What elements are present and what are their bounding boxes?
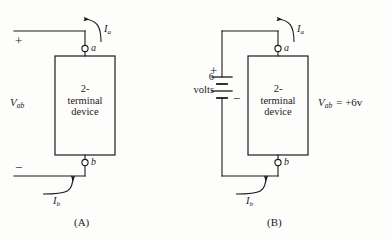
- terminal-b-node-panel-b: [275, 159, 281, 165]
- terminal-a-label-panel-b: a: [284, 43, 289, 53]
- device-label-line-2: terminal: [55, 95, 115, 107]
- current-label-ib-subscript: b: [250, 200, 254, 208]
- polarity-minus-panel-a: −: [15, 161, 22, 174]
- panel-caption-a: (A): [74, 216, 89, 228]
- voltage-label-subscript: ab: [325, 101, 332, 110]
- current-label-ia-subscript: a: [301, 28, 305, 36]
- device-label-line-2: terminal: [248, 95, 308, 107]
- circuit-figure: 2- terminal device a b Ia Ib Vab + − (A)…: [0, 0, 391, 240]
- device-label-line-3: device: [248, 106, 308, 118]
- source-polarity-minus: −: [233, 92, 240, 105]
- device-label-line-1: 2-: [248, 83, 308, 95]
- current-label-ia-subscript: a: [108, 28, 112, 36]
- current-arrow-ib-panel-b: [236, 176, 266, 194]
- terminal-b-node-panel-a: [82, 159, 88, 165]
- source-unit-label: volts: [178, 85, 214, 96]
- voltage-label-symbol: V: [318, 96, 325, 108]
- device-label-line-3: device: [55, 106, 115, 118]
- panel-caption-b: (B): [267, 216, 282, 228]
- current-label-ib-panel-b: Ib: [246, 196, 253, 208]
- voltage-label-subscript: ab: [17, 101, 24, 110]
- polarity-plus-panel-a: +: [15, 34, 22, 47]
- device-box-label-panel-a: 2- terminal device: [55, 83, 115, 118]
- voltage-label-vab-panel-a: Vab: [10, 97, 24, 109]
- voltage-label-vab-panel-b: Vab= +6v: [318, 97, 362, 109]
- terminal-b-label-panel-b: b: [284, 157, 289, 167]
- voltage-equation-value: = +6v: [336, 96, 362, 108]
- terminal-a-node-panel-a: [82, 45, 88, 51]
- terminal-b-label-panel-a: b: [91, 157, 96, 167]
- source-polarity-plus: +: [210, 64, 217, 77]
- current-arrow-ia-panel-a: [84, 19, 101, 42]
- device-box-label-panel-b: 2- terminal device: [248, 83, 308, 118]
- current-label-ia-panel-b: Ia: [297, 24, 304, 36]
- terminal-a-label-panel-a: a: [91, 43, 96, 53]
- current-arrow-ib-panel-a: [43, 176, 73, 194]
- current-label-ib-panel-a: Ib: [53, 196, 60, 208]
- current-label-ib-subscript: b: [57, 200, 61, 208]
- terminal-a-node-panel-b: [275, 45, 281, 51]
- voltage-label-symbol: V: [10, 96, 17, 108]
- device-label-line-1: 2-: [55, 83, 115, 95]
- current-label-ia-panel-a: Ia: [104, 24, 111, 36]
- current-arrow-ia-panel-b: [277, 19, 294, 42]
